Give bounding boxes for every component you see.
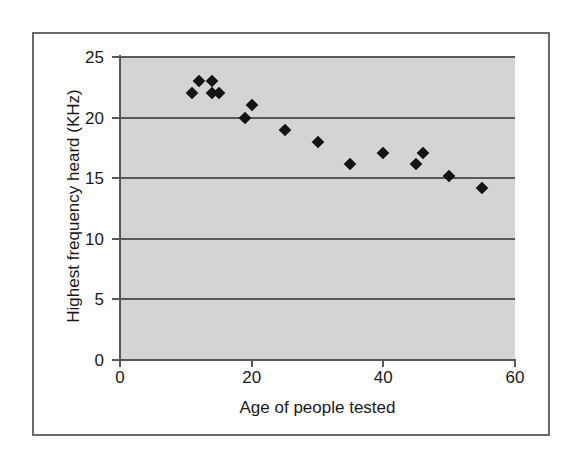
y-axis-title: Highest frequency heard (KHz) bbox=[64, 46, 84, 366]
x-axis-tick-label: 20 bbox=[242, 368, 261, 388]
gridline bbox=[120, 298, 515, 300]
plot-area bbox=[120, 57, 515, 360]
figure: 0510152025 0204060 Age of people tested … bbox=[0, 0, 578, 466]
y-axis-tick bbox=[112, 177, 119, 179]
y-axis-tick bbox=[112, 298, 119, 300]
y-axis-tick bbox=[112, 117, 119, 119]
y-axis-tick bbox=[112, 56, 119, 58]
x-axis-tick bbox=[514, 360, 516, 367]
x-axis-tick bbox=[251, 360, 253, 367]
x-axis-line bbox=[119, 359, 516, 361]
x-axis-title: Age of people tested bbox=[120, 398, 515, 418]
y-axis-tick bbox=[112, 359, 119, 361]
gridline bbox=[120, 177, 515, 179]
y-axis-line bbox=[119, 55, 121, 362]
y-axis-tick bbox=[112, 238, 119, 240]
x-axis-tick bbox=[119, 360, 121, 367]
gridline bbox=[120, 117, 515, 119]
x-axis-tick-label: 0 bbox=[115, 368, 124, 388]
gridline bbox=[120, 238, 515, 240]
x-axis-tick-label: 60 bbox=[506, 368, 525, 388]
gridline bbox=[120, 56, 515, 58]
x-axis-tick bbox=[382, 360, 384, 367]
x-axis-tick-label: 40 bbox=[374, 368, 393, 388]
